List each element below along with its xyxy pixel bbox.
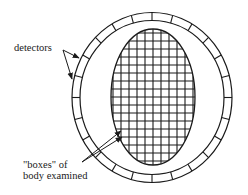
detector-divider (95, 37, 101, 43)
detector-divider (188, 24, 192, 31)
detector-divider (75, 76, 83, 78)
boxes-label-line1: "boxes" of (23, 159, 87, 170)
detector-divider (171, 172, 173, 180)
detector-divider (222, 117, 230, 119)
boxes-pointer (82, 131, 122, 162)
detector-divider (214, 136, 221, 140)
boxes-label: "boxes" of body examined (23, 159, 87, 181)
body-examined (111, 29, 195, 165)
detector-divider (112, 24, 116, 31)
detector-divider (131, 172, 133, 180)
boxes-arrow-1 (82, 131, 121, 162)
detectors-label: detectors (14, 42, 52, 53)
detector-divider (75, 117, 83, 119)
detector-divider (83, 136, 90, 140)
detector-divider (222, 76, 230, 78)
detector-divider (203, 37, 209, 43)
detector-divider (203, 152, 209, 158)
detector-divider (171, 15, 173, 23)
detector-divider (214, 55, 221, 59)
detector-divider (131, 15, 133, 23)
detector-divider (112, 164, 116, 171)
boxes-label-line2: body examined (23, 170, 87, 181)
detector-divider (83, 55, 90, 59)
detectors-pointer (63, 50, 79, 79)
detector-divider (188, 164, 192, 171)
